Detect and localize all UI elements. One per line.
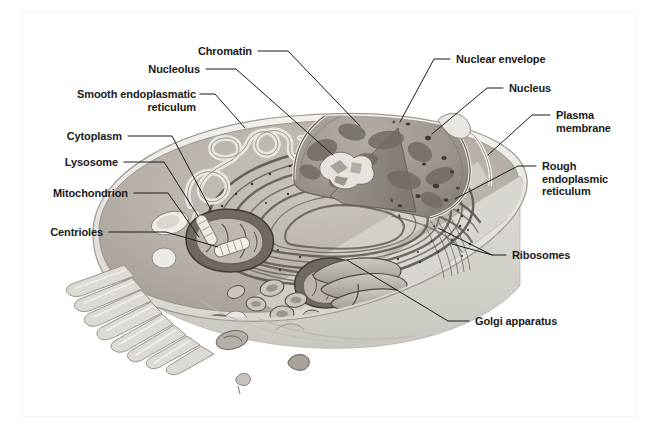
label-cytoplasm: Cytoplasm xyxy=(0,130,122,143)
label-nucleus: Nucleus xyxy=(509,82,551,95)
label-golgi-apparatus: Golgi apparatus xyxy=(475,315,557,328)
label-smooth-endoplasmic-reticulum: Smooth endoplasmatic reticulum xyxy=(0,88,196,113)
leader-line-nuclear-envelope xyxy=(400,59,450,122)
label-plasma-membrane: Plasma membrane xyxy=(556,109,611,134)
label-mitochondrion: Mitochondrion xyxy=(0,187,128,200)
label-ribosomes: Ribosomes xyxy=(512,249,570,262)
cell-diagram-figure: ChromatinNucleolusSmooth endoplasmatic r… xyxy=(0,0,658,432)
label-centrioles: Centrioles xyxy=(0,226,103,239)
label-nuclear-envelope: Nuclear envelope xyxy=(456,53,546,66)
leader-line-smooth-endoplasmic-reticulum xyxy=(200,94,245,128)
label-nucleolus: Nucleolus xyxy=(0,63,200,76)
label-chromatin: Chromatin xyxy=(0,45,252,58)
label-lysosome: Lysosome xyxy=(0,156,118,169)
label-rough-endoplasmic-reticulum: Rough endoplasmic reticulum xyxy=(542,160,608,198)
